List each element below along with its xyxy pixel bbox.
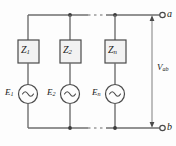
voltage-arrow [150, 15, 155, 128]
branch-n [105, 13, 126, 130]
terminal-label-b: b [167, 122, 172, 132]
terminal-label-a: a [167, 9, 172, 19]
voltage-arrow-head-down [150, 122, 155, 128]
terminal-node-a [160, 12, 165, 17]
junction-dot-bottom-n [113, 126, 117, 130]
circuit-diagram: Z1 Z2 Zn E1 E2 En a b Vab [0, 0, 176, 146]
ac-sine-symbol-2 [65, 92, 76, 97]
voltage-arrow-head-up [150, 15, 155, 21]
impedance-label-2: Z2 [63, 45, 72, 56]
impedance-label-1: Z1 [21, 45, 30, 56]
ac-sine-symbol-1 [23, 92, 34, 97]
schematic-canvas [0, 0, 176, 146]
source-label-n: En [92, 88, 101, 97]
branch-1 [18, 15, 39, 128]
impedance-label-n: Zn [108, 45, 117, 56]
voltage-label: Vab [157, 63, 169, 72]
junction-dot-bottom-2 [68, 126, 72, 130]
ac-sine-symbol-n [110, 92, 121, 97]
terminal-node-b [160, 125, 165, 130]
source-label-1: E1 [5, 88, 14, 97]
branch-2 [60, 13, 81, 130]
source-label-2: E2 [47, 88, 56, 97]
